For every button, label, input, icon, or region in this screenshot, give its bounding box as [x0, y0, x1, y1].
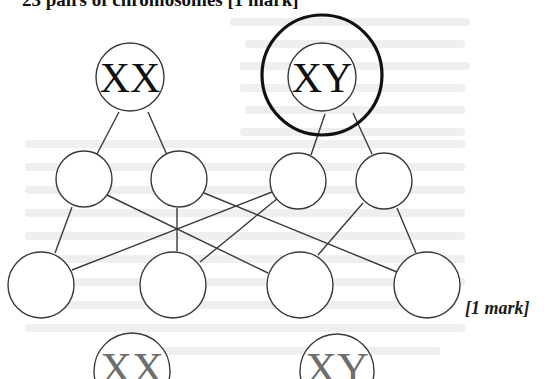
gamete-circle-3	[270, 153, 326, 209]
gamete-circle-4	[356, 153, 412, 209]
mark-label: [1 mark]	[465, 298, 530, 319]
chromosome-label: XX	[100, 344, 164, 379]
circle-outline	[56, 151, 112, 207]
offspring-circle-2	[140, 252, 206, 318]
circle-outline	[140, 252, 206, 318]
edge-line	[397, 208, 416, 253]
answer-row-circles: XXXY	[94, 333, 374, 379]
offspring-circle-3	[267, 252, 333, 318]
circle-outline	[356, 153, 412, 209]
circle-outline	[8, 252, 74, 318]
edge-line	[97, 112, 119, 154]
parent-circle-1: XX	[96, 43, 164, 111]
circle-outline	[267, 252, 333, 318]
parent-circle-2: XY	[262, 15, 382, 135]
circle-outline	[394, 252, 460, 318]
gamete-circle-2	[151, 151, 207, 207]
chromosome-label: XY	[305, 344, 369, 379]
offspring-circle-4	[394, 252, 460, 318]
edge-line	[148, 112, 167, 155]
circle-outline	[270, 153, 326, 209]
edge-line	[55, 207, 72, 253]
offspring-circles	[8, 252, 460, 318]
inheritance-diagram: XXXY XXXY	[0, 0, 546, 379]
chromosome-label: XX	[100, 55, 161, 101]
edge-line	[318, 203, 363, 255]
chromosome-label: XY	[292, 55, 353, 101]
gamete-circle-1	[56, 151, 112, 207]
circle-outline	[151, 151, 207, 207]
gamete-circles	[56, 151, 412, 209]
answer-circle-2: XY	[300, 334, 374, 379]
answer-circle-1: XX	[94, 333, 170, 379]
offspring-circle-1	[8, 252, 74, 318]
parent-circles: XXXY	[96, 15, 382, 135]
